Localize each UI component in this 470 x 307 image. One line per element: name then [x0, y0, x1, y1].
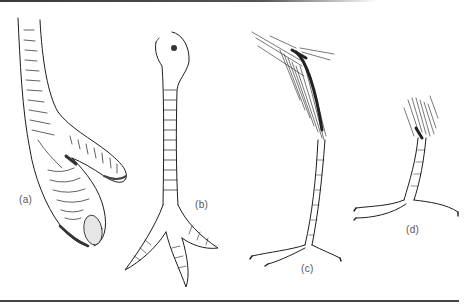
- panel-a-drawing: [18, 18, 126, 246]
- figure-bird-legs: (a) (b) (c) (d): [0, 0, 470, 307]
- panel-label-d: (d): [406, 225, 419, 235]
- panel-label-b: (b): [195, 200, 208, 210]
- panel-label-a: (a): [19, 195, 32, 205]
- panel-b-drawing: [125, 32, 218, 287]
- panel-label-c: (c): [301, 264, 314, 274]
- illustration: [0, 0, 470, 307]
- panel-d-drawing: [354, 96, 458, 220]
- panel-c-drawing: [250, 32, 341, 266]
